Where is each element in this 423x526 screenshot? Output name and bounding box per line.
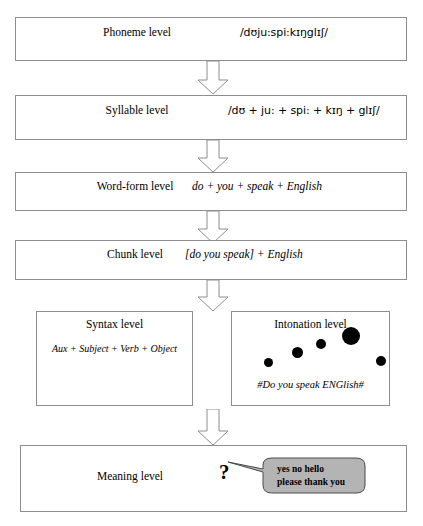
phoneme-level-content: /dʊju:spi:kɪŋglɪʃ/	[240, 26, 328, 39]
word-form-level-content: do + you + speak + English	[192, 180, 322, 192]
syntax-level-title: Syntax level	[36, 318, 193, 330]
language-processing-diagram: Phoneme level /dʊju:spi:kɪŋglɪʃ/ Syllabl…	[0, 0, 423, 526]
intonation-dot	[342, 327, 360, 345]
arrow-syllable-to-wordform	[197, 140, 229, 173]
intonation-level-title: Intonation level	[231, 318, 390, 330]
syllable-level-label: Syllable level	[52, 104, 222, 116]
speech-bubble	[228, 452, 368, 498]
arrow-phoneme-to-syllable	[197, 61, 229, 95]
intonation-dot	[376, 356, 386, 366]
syntax-level-body: Aux + Subject + Verb + Object	[36, 343, 193, 354]
intonation-dot	[316, 339, 326, 349]
syllable-level-box	[15, 95, 407, 140]
syllable-level-content: /dʊ + ju: + spi: + kɪŋ + glɪʃ/	[228, 104, 380, 117]
speech-bubble-line-1: yes no hello	[277, 463, 324, 475]
intonation-dot	[264, 358, 273, 367]
arrow-syntax-intonation-to-meaning	[197, 409, 229, 446]
chunk-level-box	[15, 240, 407, 280]
meaning-level-label: Meaning level	[45, 470, 215, 482]
arrow-chunk-to-syntax-intonation	[197, 280, 229, 312]
speech-bubble-line-2: please thank you	[277, 476, 345, 488]
chunk-level-content: [do you speak] + English	[185, 248, 303, 260]
intonation-dot	[292, 347, 303, 358]
phoneme-level-box	[15, 17, 407, 61]
phoneme-level-label: Phoneme level	[52, 26, 222, 38]
intonation-level-caption: #Do you speak ENGlish#	[231, 379, 390, 390]
